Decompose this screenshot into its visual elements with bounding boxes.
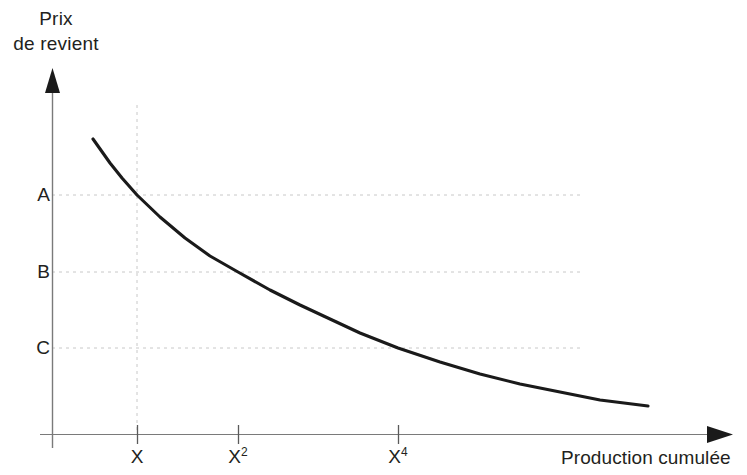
y-axis-arrowhead [45, 68, 60, 93]
x-tick-label-x4-base: X [388, 446, 401, 467]
experience-curve-figure: Prix de revient Production cumulée A B C… [0, 0, 747, 475]
y-tick-label-b: B [24, 261, 50, 283]
x-tick-label-x2: X2 [208, 446, 268, 468]
chart-canvas [0, 0, 747, 475]
x-tick-label-x2-base: X [228, 446, 241, 467]
x-axis-arrowhead [707, 426, 733, 443]
horizontal-gridlines [52, 195, 580, 348]
x-tick-label-x2-exponent: 2 [241, 445, 248, 459]
x-axis [40, 426, 733, 443]
y-axis [45, 68, 60, 448]
y-axis-title: Prix de revient [0, 6, 112, 56]
y-axis-title-line2: de revient [0, 31, 112, 56]
x-axis-title: Production cumulée [561, 447, 731, 469]
y-tick-label-c: C [24, 337, 50, 359]
x-tick-label-x: X [107, 446, 167, 468]
x-tick-label-x4-exponent: 4 [401, 445, 408, 459]
y-axis-title-line1: Prix [0, 6, 112, 31]
y-tick-label-a: A [24, 184, 50, 206]
x-tick-label-x4: X4 [368, 446, 428, 468]
x-tick-label-x-base: X [131, 446, 144, 467]
